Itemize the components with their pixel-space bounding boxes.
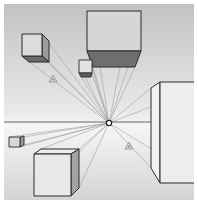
perspective-diagram bbox=[0, 0, 197, 204]
box-top-large bbox=[87, 11, 141, 67]
cube-top-left bbox=[22, 34, 49, 62]
diagram-canvas bbox=[0, 0, 197, 204]
cube-bottom-left bbox=[34, 149, 79, 196]
vanishing-point-icon bbox=[106, 120, 111, 125]
box-right-large bbox=[151, 82, 194, 183]
cube-left-tiny bbox=[9, 136, 24, 147]
cube-small-center bbox=[79, 60, 92, 77]
